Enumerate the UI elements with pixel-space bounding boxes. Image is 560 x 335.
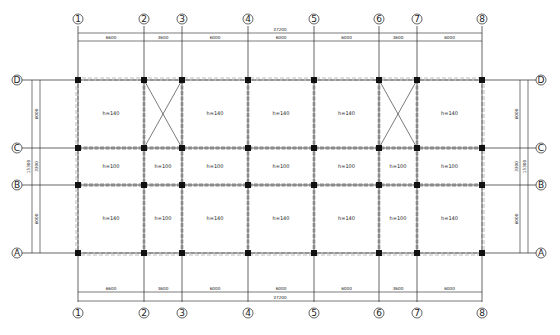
slab-thickness-label: h=100 <box>273 163 290 169</box>
column <box>141 250 147 256</box>
axis-label-D: D <box>14 75 21 85</box>
slab-thickness-label: h=140 <box>273 215 290 221</box>
axis-label-7: 7 <box>414 308 420 318</box>
column <box>179 77 185 83</box>
column <box>141 77 147 83</box>
slab-thickness-label: h=100 <box>390 215 407 221</box>
column <box>479 250 485 256</box>
axis-label-8: 8 <box>479 14 485 24</box>
column <box>141 145 147 151</box>
bottom-span-dimension: 6000 <box>341 286 352 291</box>
axis-label-A: A <box>14 248 21 258</box>
axis-label-3: 3 <box>179 308 185 318</box>
slab-thickness-label: h=100 <box>338 163 355 169</box>
bottom-total-dimension: 37200 <box>273 295 287 300</box>
axis-label-2: 2 <box>141 14 147 24</box>
slab-thickness-label: h=140 <box>441 215 458 221</box>
axis-label-8: 8 <box>479 308 485 318</box>
axis-label-3: 3 <box>179 14 185 24</box>
bottom-span-dimension: 3600 <box>393 286 404 291</box>
slab-thickness-label: h=140 <box>273 110 290 116</box>
slab-thickness-label: h=100 <box>390 163 407 169</box>
axis-label-5: 5 <box>311 308 317 318</box>
column <box>479 145 485 151</box>
top-span-dimension: 6000 <box>210 35 221 40</box>
right-span-dimension: 3300 <box>514 161 519 172</box>
column <box>179 145 185 151</box>
column <box>376 145 382 151</box>
slab-thickness-label: h=140 <box>338 110 355 116</box>
column <box>245 182 251 188</box>
column <box>414 145 420 151</box>
column <box>376 77 382 83</box>
axis-label-1: 1 <box>75 14 81 24</box>
column <box>141 182 147 188</box>
column <box>75 182 81 188</box>
column <box>376 182 382 188</box>
axis-label-B: B <box>14 180 20 190</box>
column <box>311 145 317 151</box>
column <box>414 182 420 188</box>
slab-thickness-label: h=140 <box>103 110 120 116</box>
column <box>179 250 185 256</box>
right-total-dimension: 15300 <box>522 160 527 174</box>
axis-label-7: 7 <box>414 14 420 24</box>
axis-label-D: D <box>538 75 545 85</box>
right-span-dimension: 6000 <box>514 213 519 224</box>
column <box>376 250 382 256</box>
column <box>245 250 251 256</box>
column <box>414 77 420 83</box>
axis-label-4: 4 <box>245 308 251 318</box>
bottom-span-dimension: 6600 <box>106 286 117 291</box>
column <box>311 250 317 256</box>
axis-label-5: 5 <box>311 14 317 24</box>
bottom-span-dimension: 6000 <box>210 286 221 291</box>
bottom-span-dimension: 3600 <box>158 286 169 291</box>
top-span-dimension: 6600 <box>106 35 117 40</box>
slab-thickness-label: h=100 <box>155 215 172 221</box>
left-span-dimension: 6000 <box>34 108 39 119</box>
axis-label-B: B <box>538 180 544 190</box>
column <box>479 182 485 188</box>
slab-thickness-label: h=140 <box>207 110 224 116</box>
column <box>75 250 81 256</box>
slab-thickness-label: h=140 <box>103 215 120 221</box>
axis-label-6: 6 <box>376 308 382 318</box>
column <box>414 250 420 256</box>
left-span-dimension: 6000 <box>34 213 39 224</box>
column <box>479 77 485 83</box>
column <box>179 182 185 188</box>
axis-label-A: A <box>538 248 545 258</box>
left-span-dimension: 3300 <box>34 161 39 172</box>
top-span-dimension: 3600 <box>393 35 404 40</box>
bottom-span-dimension: 6000 <box>444 286 455 291</box>
column <box>245 77 251 83</box>
top-total-dimension: 37200 <box>273 27 287 32</box>
slab-thickness-label: h=140 <box>338 215 355 221</box>
bottom-span-dimension: 6000 <box>276 286 287 291</box>
top-span-dimension: 6000 <box>444 35 455 40</box>
slab-thickness-label: h=100 <box>155 163 172 169</box>
column <box>75 77 81 83</box>
top-span-dimension: 3600 <box>158 35 169 40</box>
column <box>311 77 317 83</box>
structural-floor-plan: 3720066003600600060006000360060006600360… <box>0 0 560 335</box>
axis-label-4: 4 <box>245 14 251 24</box>
column <box>75 145 81 151</box>
axis-label-C: C <box>538 143 544 153</box>
slab-panels: h=140h=140h=140h=140h=140h=100h=100h=100… <box>103 80 458 221</box>
slab-thickness-label: h=100 <box>103 163 120 169</box>
axis-label-1: 1 <box>75 308 81 318</box>
column <box>311 182 317 188</box>
slab-thickness-label: h=140 <box>441 110 458 116</box>
right-span-dimension: 6000 <box>514 108 519 119</box>
axis-label-C: C <box>14 143 20 153</box>
axis-label-6: 6 <box>376 14 382 24</box>
top-span-dimension: 6000 <box>276 35 287 40</box>
slab-thickness-label: h=100 <box>207 163 224 169</box>
top-span-dimension: 6000 <box>341 35 352 40</box>
column <box>245 145 251 151</box>
axis-label-2: 2 <box>141 308 147 318</box>
slab-thickness-label: h=140 <box>207 215 224 221</box>
left-total-dimension: 15300 <box>26 160 31 174</box>
